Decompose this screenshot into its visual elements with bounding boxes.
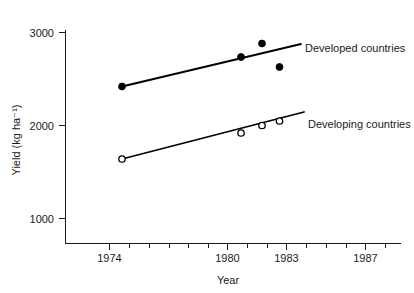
- data-point-developing: [276, 118, 282, 124]
- data-point-developed: [119, 83, 126, 90]
- data-point-developed: [238, 54, 245, 61]
- x-tick-label-1980: 1980: [215, 252, 239, 264]
- x-axis-title: Year: [217, 274, 240, 286]
- data-point-developing: [238, 130, 244, 136]
- trend-line-developed: [122, 44, 301, 87]
- y-tick-label-1000: 1000: [30, 213, 54, 225]
- series-label-developed: Developed countries: [305, 42, 406, 54]
- x-tick-label-1983: 1983: [274, 252, 298, 264]
- data-point-developed: [259, 40, 266, 47]
- chart-figure: 3000 2000 1000 Yield (kg ha⁻¹) 1974 1980…: [0, 0, 414, 293]
- x-tick-label-1987: 1987: [353, 252, 377, 264]
- y-axis-title: Yield (kg ha⁻¹): [10, 104, 22, 175]
- data-point-developing: [259, 122, 265, 128]
- scatter-plot-canvas: 3000 2000 1000 Yield (kg ha⁻¹) 1974 1980…: [0, 0, 414, 293]
- series-label-developing: Developing countries: [308, 118, 411, 130]
- y-tick-label-2000: 2000: [30, 120, 54, 132]
- x-tick-label-1974: 1974: [97, 252, 121, 264]
- data-point-developed: [276, 64, 283, 71]
- data-point-developing: [119, 156, 125, 162]
- y-tick-label-3000: 3000: [30, 27, 54, 39]
